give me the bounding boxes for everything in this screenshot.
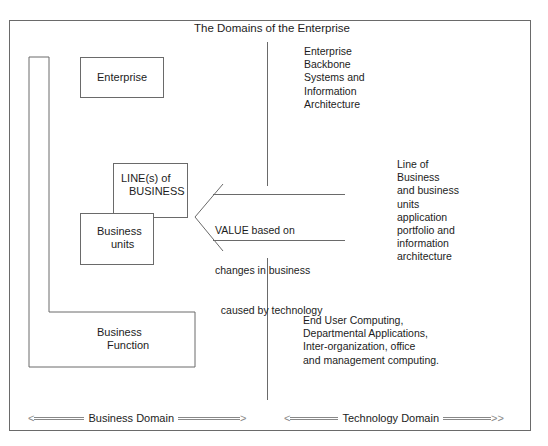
- end-user-computing-text: End User Computing, Departmental Applica…: [303, 314, 439, 367]
- business-units-label: Business units: [97, 225, 142, 251]
- business-function-label: Business Function: [97, 326, 149, 352]
- line-of-business-text: Line of Business and business units appl…: [397, 158, 459, 264]
- business-domain-label: < Business Domain >: [28, 412, 256, 424]
- technology-domain-label: < Technology Domain >>: [284, 412, 524, 424]
- lines-of-business-label: LINE(s) of BUSINESS: [121, 172, 185, 198]
- value-arrow-text: VALUE based on changes in business cause…: [215, 198, 322, 330]
- right-arrow-icon: >: [240, 412, 246, 424]
- double-right-arrow-icon: >>: [491, 412, 504, 424]
- enterprise-backbone-text: Enterprise Backbone Systems and Informat…: [304, 45, 365, 111]
- enterprise-label: Enterprise: [97, 71, 147, 84]
- enterprise-box: Enterprise: [80, 57, 164, 98]
- business-units-box: Business units: [80, 213, 154, 265]
- lines-of-business-box: LINE(s) of BUSINESS: [113, 163, 188, 218]
- domain-line: [34, 417, 84, 420]
- domain-line: [290, 417, 338, 420]
- domain-line: [178, 417, 240, 420]
- domain-line: [443, 417, 491, 420]
